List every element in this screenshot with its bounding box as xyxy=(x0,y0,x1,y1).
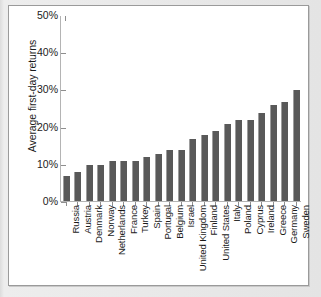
x-axis-tick-label: Russia xyxy=(70,205,81,285)
x-axis-tick-label: Israel xyxy=(185,205,196,285)
x-axis-tick-label: Cyprus xyxy=(254,205,265,285)
bar-series xyxy=(61,16,301,202)
x-axis-tick-label: Portugal xyxy=(162,205,173,285)
x-axis-tick-label: Finland xyxy=(208,205,219,285)
chart-figure: Average first-day returns 0%10%20%30%40%… xyxy=(0,0,321,297)
y-axis-title: Average first-day returns xyxy=(26,21,38,171)
bar xyxy=(201,135,208,202)
bar xyxy=(86,165,93,202)
bar xyxy=(155,154,162,202)
bar xyxy=(97,165,104,202)
x-axis-tick-label: Italy xyxy=(231,205,242,285)
chart-panel: Average first-day returns 0%10%20%30%40%… xyxy=(8,5,309,286)
y-axis-tick-label: 50% xyxy=(37,9,58,21)
x-axis-tick-label: Turkey xyxy=(139,205,150,285)
bar xyxy=(109,161,116,202)
x-axis-tick-label: Belgium xyxy=(174,205,185,285)
x-axis-tick-label: United States xyxy=(220,205,231,285)
bar xyxy=(247,120,254,202)
bar xyxy=(132,161,139,202)
y-axis-tick-label: 10% xyxy=(37,158,58,170)
plot-area: 0%10%20%30%40%50% xyxy=(60,16,301,202)
y-axis-tick-label: 30% xyxy=(37,83,58,95)
x-axis-tick-label: Sweden xyxy=(300,205,311,285)
x-axis-tick-label: Greece xyxy=(277,205,288,285)
bar xyxy=(63,176,70,202)
x-axis-tick-label: Germany xyxy=(288,205,299,285)
y-axis-tick-label: 20% xyxy=(37,121,58,133)
y-axis-tick-label: 40% xyxy=(37,46,58,58)
x-axis-labels: RussiaAustriaDenmarkNorwayNetherlandsFra… xyxy=(61,205,302,285)
x-axis-tick-label: Ireland xyxy=(265,205,276,285)
x-axis-tick-label: Denmark xyxy=(93,205,104,285)
y-axis-tick-label: 0% xyxy=(43,195,58,207)
bar xyxy=(258,113,265,202)
bar xyxy=(270,105,277,202)
bar xyxy=(178,150,185,202)
bar xyxy=(74,172,81,202)
bar xyxy=(224,124,231,202)
bar xyxy=(143,157,150,202)
bar xyxy=(189,139,196,202)
bar xyxy=(235,120,242,202)
x-axis-tick-label: Norway xyxy=(105,205,116,285)
x-axis-tick-label: United Kingdom xyxy=(197,205,208,285)
x-axis-tick-label: Netherlands xyxy=(116,205,127,285)
x-axis-tick-label: Spain xyxy=(151,205,162,285)
bar xyxy=(281,102,288,202)
x-axis-line xyxy=(60,201,301,202)
x-axis-tick-label: Austria xyxy=(82,205,93,285)
bar xyxy=(166,150,173,202)
x-axis-tick-label: Poland xyxy=(242,205,253,285)
x-axis-tick-label: France xyxy=(128,205,139,285)
bar xyxy=(293,90,300,202)
bar xyxy=(212,131,219,202)
bar xyxy=(120,161,127,202)
